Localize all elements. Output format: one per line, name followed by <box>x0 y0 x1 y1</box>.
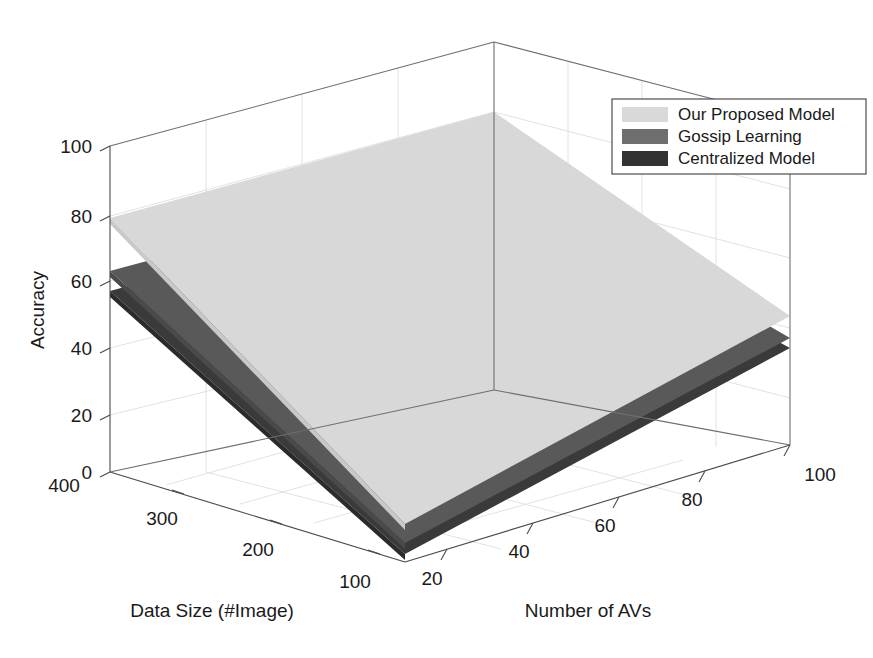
x-tick-label: 200 <box>242 539 274 560</box>
z-tick-label: 100 <box>60 136 92 157</box>
x-axis-title: Data Size (#Image) <box>130 600 294 621</box>
legend-swatch-gossip-learning <box>622 129 668 144</box>
z-tick-label: 80 <box>71 206 92 227</box>
z-tick-label: 0 <box>81 462 92 483</box>
y-tick-label: 100 <box>804 464 836 485</box>
x-tick-label: 100 <box>339 571 371 592</box>
plot-canvas: 100 80 60 40 20 0 Accuracy 400 300 200 1… <box>0 0 873 658</box>
y-tick-label: 20 <box>421 568 442 589</box>
y-tick-label: 40 <box>508 541 529 562</box>
y-tick-label: 60 <box>594 515 615 536</box>
legend[interactable]: Our Proposed Model Gossip Learning Centr… <box>612 99 866 174</box>
x-tick-label: 300 <box>146 508 178 529</box>
legend-label-gossip-learning[interactable]: Gossip Learning <box>678 127 802 146</box>
legend-label-our-proposed-model[interactable]: Our Proposed Model <box>678 105 835 124</box>
z-tick-label: 40 <box>71 338 92 359</box>
z-axis-group: 100 80 60 40 20 0 Accuracy <box>27 136 110 483</box>
z-tick-label: 60 <box>71 271 92 292</box>
legend-label-centralized-model[interactable]: Centralized Model <box>678 149 815 168</box>
z-axis-ticks <box>100 146 110 477</box>
surface-plot-figure: 100 80 60 40 20 0 Accuracy 400 300 200 1… <box>0 0 873 658</box>
x-tick-label: 400 <box>48 475 80 496</box>
legend-swatch-our-proposed-model <box>622 107 668 122</box>
y-axis-title: Number of AVs <box>525 600 651 621</box>
z-tick-label: 20 <box>71 405 92 426</box>
z-axis-title: Accuracy <box>27 270 48 349</box>
legend-swatch-centralized-model <box>622 151 668 166</box>
y-tick-label: 80 <box>681 489 702 510</box>
